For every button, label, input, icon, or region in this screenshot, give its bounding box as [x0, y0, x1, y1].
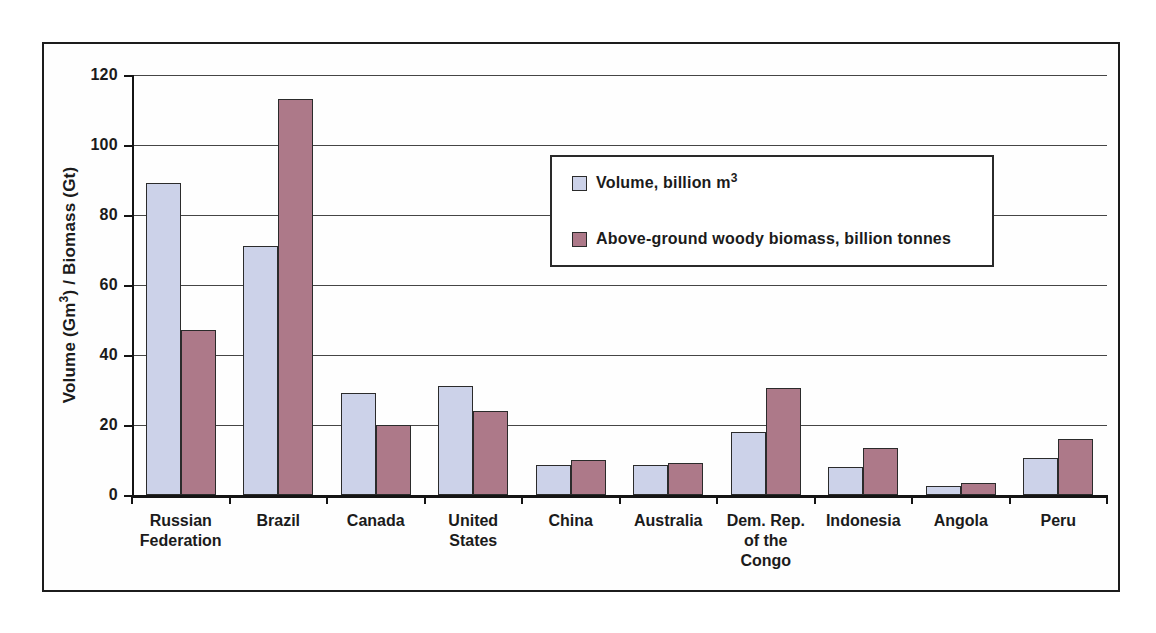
y-tick-120	[124, 75, 132, 77]
bar-volume-4	[536, 465, 571, 495]
legend-entry-volume: Volume, billion m3	[572, 174, 992, 192]
bar-biomass-7	[863, 448, 898, 495]
x-axis-label-9: Peru	[1005, 511, 1113, 531]
bar-volume-5	[633, 465, 668, 495]
x-axis-label-5: Australia	[615, 511, 723, 531]
bar-biomass-2	[376, 425, 411, 495]
x-axis-label-3: United States	[420, 511, 528, 551]
y-tick-100	[124, 145, 132, 147]
legend-label-biomass-text: Above-ground woody biomass, billion tonn…	[596, 230, 951, 247]
bar-biomass-9	[1058, 439, 1093, 495]
x-axis-label-4: China	[517, 511, 625, 531]
x-tick-10	[1106, 495, 1108, 504]
bar-biomass-0	[181, 330, 216, 495]
x-tick-5	[619, 495, 621, 504]
x-tick-2	[326, 495, 328, 504]
legend-label-volume: Volume, billion m3	[596, 174, 738, 192]
x-axis-label-0: Russian Federation	[127, 511, 235, 551]
y-tick-label-60: 60	[72, 276, 118, 294]
bar-biomass-6	[766, 388, 801, 495]
gridline-120	[132, 75, 1107, 76]
legend-entry-biomass: Above-ground woody biomass, billion tonn…	[572, 230, 992, 248]
bar-volume-7	[828, 467, 863, 495]
y-tick-80	[124, 215, 132, 217]
y-tick-label-40: 40	[72, 346, 118, 364]
legend-label-volume-superscript: 3	[731, 171, 738, 185]
bar-volume-1	[243, 246, 278, 495]
chart-figure: Volume (Gm3) / Biomass (Gt) 020406080100…	[0, 0, 1156, 633]
legend-label-biomass: Above-ground woody biomass, billion tonn…	[596, 230, 951, 248]
y-tick-20	[124, 425, 132, 427]
x-tick-1	[229, 495, 231, 504]
x-axis-label-7: Indonesia	[810, 511, 918, 531]
bar-volume-8	[926, 486, 961, 495]
legend-label-volume-text: Volume, billion m	[596, 174, 731, 191]
x-axis-label-1: Brazil	[225, 511, 333, 531]
bar-volume-3	[438, 386, 473, 495]
y-tick-label-120: 120	[72, 66, 118, 84]
y-tick-label-80: 80	[72, 206, 118, 224]
x-tick-6	[716, 495, 718, 504]
y-tick-60	[124, 285, 132, 287]
x-axis-label-6: Dem. Rep. of the Congo	[712, 511, 820, 571]
legend-box: Volume, billion m3 Above-ground woody bi…	[550, 155, 994, 267]
y-tick-label-100: 100	[72, 136, 118, 154]
legend-swatch-biomass	[572, 232, 587, 247]
y-axis-title-superscript: 3	[57, 296, 71, 303]
bar-biomass-4	[571, 460, 606, 495]
bar-volume-6	[731, 432, 766, 495]
plot-area: 020406080100120Russian FederationBrazilC…	[44, 44, 1118, 590]
bar-biomass-3	[473, 411, 508, 495]
bar-biomass-8	[961, 483, 996, 495]
bar-volume-0	[146, 183, 181, 495]
bar-biomass-5	[668, 463, 703, 495]
x-tick-4	[521, 495, 523, 504]
x-tick-3	[424, 495, 426, 504]
y-tick-label-20: 20	[72, 416, 118, 434]
y-axis-line	[132, 75, 134, 497]
x-axis-label-2: Canada	[322, 511, 430, 531]
x-tick-9	[1009, 495, 1011, 504]
y-tick-label-0: 0	[72, 486, 118, 504]
y-tick-40	[124, 355, 132, 357]
x-tick-7	[814, 495, 816, 504]
x-tick-8	[911, 495, 913, 504]
bar-biomass-1	[278, 99, 313, 495]
chart-frame: Volume (Gm3) / Biomass (Gt) 020406080100…	[42, 42, 1120, 592]
bar-volume-9	[1023, 458, 1058, 495]
x-tick-0	[131, 495, 133, 504]
x-axis-label-8: Angola	[907, 511, 1015, 531]
bar-volume-2	[341, 393, 376, 495]
legend-swatch-volume	[572, 176, 587, 191]
